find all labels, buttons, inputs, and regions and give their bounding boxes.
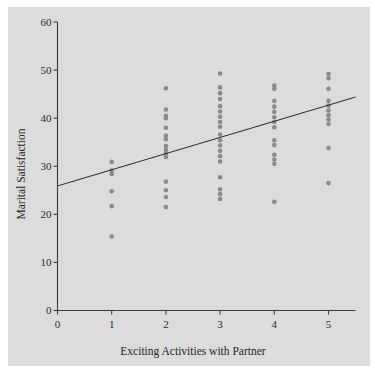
data-point [164, 86, 169, 91]
y-tick-label: 50 [30, 65, 52, 76]
data-point [109, 172, 114, 177]
data-point [218, 109, 223, 114]
x-tick-label: 3 [210, 319, 230, 330]
x-axis-title: Exciting Activities with Partner [57, 345, 329, 357]
data-point [326, 181, 331, 186]
data-point [272, 87, 277, 92]
data-point [164, 137, 169, 142]
data-point [218, 187, 223, 192]
data-point [272, 143, 277, 148]
y-tick-label: 40 [30, 113, 52, 124]
data-point [218, 104, 223, 109]
data-points-group [109, 71, 330, 239]
y-tick-label: 0 [30, 305, 52, 316]
data-point [326, 76, 331, 81]
data-point [272, 125, 277, 130]
data-point [272, 138, 277, 143]
x-tick-label: 1 [102, 319, 122, 330]
data-point [218, 192, 223, 197]
data-point [326, 113, 331, 118]
data-point [326, 87, 331, 92]
data-point [326, 99, 331, 104]
data-point [218, 175, 223, 180]
data-point [164, 179, 169, 184]
data-point [109, 204, 114, 209]
data-point [218, 91, 223, 96]
y-tick-label: 20 [30, 209, 52, 220]
data-point [109, 234, 114, 239]
data-point [326, 108, 331, 113]
data-point [218, 120, 223, 125]
data-point [272, 99, 277, 104]
y-tick-label: 60 [30, 17, 52, 28]
data-point [218, 159, 223, 164]
data-point [326, 117, 331, 122]
data-point [272, 104, 277, 109]
data-point [326, 146, 331, 151]
data-point [218, 114, 223, 119]
regression-line [58, 97, 356, 186]
data-point [272, 110, 277, 115]
data-point [164, 205, 169, 210]
x-tick-label: 2 [156, 319, 176, 330]
data-point [109, 160, 114, 165]
y-tick-label: 10 [30, 257, 52, 268]
data-point [164, 188, 169, 193]
data-point [272, 162, 277, 167]
data-point [218, 71, 223, 76]
data-point [218, 143, 223, 148]
x-tick-label: 0 [48, 319, 68, 330]
x-tick-label: 4 [264, 319, 284, 330]
data-point [218, 97, 223, 102]
data-point [218, 132, 223, 137]
data-point [164, 125, 169, 130]
data-point [326, 72, 331, 77]
axes-group [54, 22, 356, 315]
data-point [272, 200, 277, 205]
data-point [109, 189, 114, 194]
data-point [218, 138, 223, 143]
data-point [218, 85, 223, 90]
data-point [272, 157, 277, 162]
data-point [164, 155, 169, 160]
scatter-plot-figure: 0102030405060012345 Marital Satisfaction… [0, 0, 375, 373]
data-point [218, 125, 223, 130]
data-point [272, 115, 277, 120]
data-point [218, 149, 223, 154]
data-point [326, 122, 331, 127]
x-tick-label: 5 [319, 319, 339, 330]
data-point [164, 195, 169, 200]
regression-line-group [58, 97, 356, 186]
data-point [218, 197, 223, 202]
y-axis-title: Marital Satisfaction [15, 109, 27, 239]
data-point [164, 107, 169, 112]
data-point [164, 116, 169, 121]
data-point [218, 154, 223, 159]
data-point [272, 152, 277, 157]
y-tick-label: 30 [30, 161, 52, 172]
